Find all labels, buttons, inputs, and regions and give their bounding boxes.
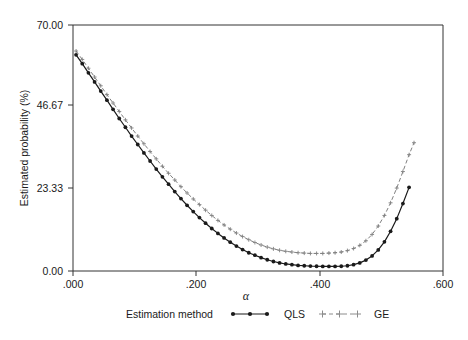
y-tick-label-4667: 46.67 — [37, 99, 63, 111]
data-point — [247, 251, 251, 255]
data-point — [124, 125, 128, 129]
data-point — [136, 143, 140, 147]
data-point — [321, 265, 325, 269]
data-point — [309, 264, 313, 268]
chart-figure: 70.00 46.67 23.33 0.00 .000 .200 .400 .6… — [0, 0, 468, 340]
data-point — [358, 261, 362, 265]
data-point — [105, 98, 109, 102]
data-point — [191, 210, 195, 214]
data-point — [284, 262, 288, 266]
data-point — [167, 182, 171, 186]
data-point — [259, 256, 263, 260]
data-point — [364, 258, 368, 262]
data-point — [117, 117, 121, 121]
data-point — [130, 134, 134, 138]
data-point — [87, 71, 91, 75]
legend-title: Estimation method — [126, 308, 213, 320]
data-point — [333, 265, 337, 269]
x-axis-title: α — [243, 289, 250, 303]
y-tick-label-70: 70.00 — [37, 19, 63, 31]
data-point — [154, 167, 158, 171]
data-point — [204, 221, 208, 225]
data-point — [315, 264, 319, 268]
legend-label-qls: QLS — [284, 308, 305, 320]
legend-marker-qls-3 — [265, 312, 269, 316]
data-point — [302, 264, 306, 268]
legend-label-ge: GE — [374, 308, 389, 320]
x-tick-label-000: .000 — [63, 278, 84, 290]
data-point — [216, 232, 220, 236]
data-point — [185, 203, 189, 207]
data-point — [198, 216, 202, 220]
y-axis-title: Estimated probability (%) — [18, 90, 30, 207]
data-point — [179, 197, 183, 201]
data-point — [228, 240, 232, 244]
data-point — [290, 263, 294, 267]
data-point — [339, 264, 343, 268]
x-tick-label-400: .400 — [310, 278, 331, 290]
data-point — [383, 240, 387, 244]
data-point — [376, 248, 380, 252]
data-point — [235, 244, 239, 248]
legend-marker-qls-2 — [248, 312, 252, 316]
data-point — [210, 227, 214, 231]
data-point — [80, 62, 84, 66]
x-tick-label-600: .600 — [433, 278, 454, 290]
data-point — [173, 190, 177, 194]
data-point — [370, 254, 374, 258]
data-point — [407, 185, 411, 189]
data-point — [278, 261, 282, 265]
data-point — [389, 229, 393, 233]
data-point — [222, 236, 226, 240]
data-point — [241, 248, 245, 252]
data-point — [395, 217, 399, 221]
data-point — [352, 263, 356, 267]
y-tick-label-0: 0.00 — [43, 265, 64, 277]
y-tick-label-2333: 23.33 — [37, 182, 63, 194]
data-point — [253, 253, 257, 257]
data-point — [265, 258, 269, 262]
data-point — [272, 260, 276, 264]
data-point — [401, 202, 405, 206]
data-point — [161, 175, 165, 179]
line-chart: 70.00 46.67 23.33 0.00 .000 .200 .400 .6… — [0, 0, 468, 340]
data-point — [148, 159, 152, 163]
data-point — [142, 151, 146, 155]
data-point — [346, 264, 350, 268]
legend-marker-qls-1 — [231, 312, 235, 316]
data-point — [99, 89, 103, 93]
x-tick-label-200: .200 — [186, 278, 207, 290]
data-point — [296, 263, 300, 267]
data-point — [327, 265, 331, 269]
data-point — [111, 107, 115, 111]
data-point — [93, 80, 97, 84]
